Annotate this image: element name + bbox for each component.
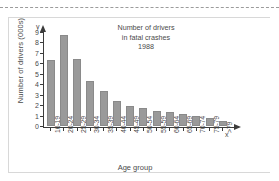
y-tick-7 <box>40 53 44 54</box>
x-tick-0 <box>50 127 51 131</box>
y-tick-label-6: 6 <box>30 60 39 67</box>
x-axis-label: Age group <box>40 163 230 172</box>
x-tick-2 <box>77 127 78 131</box>
y-tick-label-2: 2 <box>30 102 39 109</box>
y-tick-9 <box>40 32 44 33</box>
bar-60-64 <box>166 112 174 126</box>
bar-16-19 <box>47 60 55 127</box>
x-tick-3 <box>90 127 91 131</box>
y-tick-label-7: 7 <box>30 50 39 57</box>
bar-chart-plot: Number of drivers in fatal crashes 1988 … <box>0 0 279 181</box>
y-tick-label-3: 3 <box>30 92 39 99</box>
chart-page: Number of drivers in fatal crashes 1988 … <box>0 0 279 181</box>
bar->79 <box>219 121 227 126</box>
chart-title-line-3: 1988 <box>92 42 200 52</box>
chart-title-line-2: in fatal crashes <box>92 33 200 43</box>
x-tick-label-13: >79 <box>226 122 233 133</box>
bar-35-39 <box>100 91 108 127</box>
y-tick-5 <box>40 74 44 75</box>
bar-40-44 <box>113 101 121 126</box>
y-tick-1 <box>40 116 44 117</box>
x-tick-9 <box>169 127 170 131</box>
bar-70-74 <box>192 116 200 126</box>
chart-title-line-1: Number of drivers <box>92 23 200 33</box>
y-tick-label-0: 0 <box>30 123 39 130</box>
x-tick-6 <box>130 127 131 131</box>
y-tick-label-8: 8 <box>30 39 39 46</box>
y-tick-label-9: 9 <box>30 29 39 36</box>
y-tick-label-1: 1 <box>30 113 39 120</box>
bar-55-59 <box>153 111 161 127</box>
y-axis-label: Number of drivers (000s) <box>16 13 25 109</box>
bar-20-24 <box>60 35 68 127</box>
bar-65-69 <box>179 114 187 127</box>
y-axis-arrow-icon <box>40 25 46 32</box>
x-tick-1 <box>63 127 64 131</box>
x-tick-11 <box>196 127 197 131</box>
x-tick-10 <box>183 127 184 131</box>
x-tick-8 <box>156 127 157 131</box>
x-tick-12 <box>209 127 210 131</box>
y-tick-label-4: 4 <box>30 81 39 88</box>
chart-title: Number of drivers in fatal crashes 1988 <box>92 23 200 52</box>
x-tick-7 <box>143 127 144 131</box>
bar-30-34 <box>86 81 94 127</box>
bar-45-49 <box>126 106 134 127</box>
y-tick-8 <box>40 42 44 43</box>
y-tick-0 <box>40 126 44 127</box>
y-axis-line <box>43 31 44 127</box>
x-axis-arrow-icon <box>234 124 241 130</box>
bar-25-29 <box>73 59 81 127</box>
bar-50-54 <box>139 108 147 127</box>
y-tick-2 <box>40 105 44 106</box>
y-tick-3 <box>40 95 44 96</box>
x-tick-4 <box>103 127 104 131</box>
y-tick-label-5: 5 <box>30 71 39 78</box>
x-tick-13 <box>222 127 223 131</box>
y-tick-4 <box>40 84 44 85</box>
x-tick-5 <box>116 127 117 131</box>
y-tick-6 <box>40 63 44 64</box>
bar-75-79 <box>206 118 214 126</box>
